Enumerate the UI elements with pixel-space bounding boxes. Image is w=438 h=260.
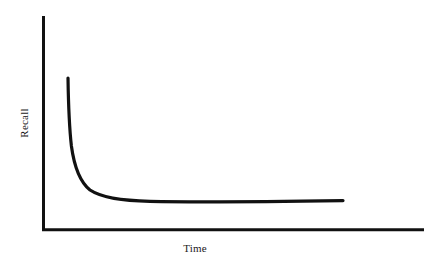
- recall-decay-curve: [68, 78, 343, 202]
- forgetting-curve-figure: Recall Time: [0, 0, 438, 260]
- x-axis-label: Time: [183, 243, 207, 254]
- chart-canvas: [0, 0, 438, 260]
- y-axis-label: Recall: [19, 108, 30, 137]
